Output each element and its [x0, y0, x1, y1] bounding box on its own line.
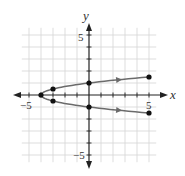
arrow-left-icon	[13, 92, 21, 98]
data-point	[86, 80, 91, 85]
direction-arrow-right-icon	[116, 77, 122, 83]
coordinate-plane: y x −5 5 5 −5	[0, 0, 185, 176]
x-tick-label-5: 5	[146, 99, 152, 111]
data-point	[50, 86, 55, 91]
direction-arrow-left-icon	[116, 107, 122, 113]
data-point	[146, 74, 151, 79]
axes	[13, 23, 168, 169]
y-tick-label-5: 5	[78, 31, 84, 43]
data-point	[146, 110, 151, 115]
y-axis-label: y	[81, 8, 89, 23]
x-tick-label-neg5: −5	[20, 99, 32, 111]
arrow-down-icon	[86, 161, 92, 169]
data-point	[50, 98, 55, 103]
arrow-right-icon	[160, 92, 168, 98]
data-point	[86, 104, 91, 109]
data-point	[38, 92, 43, 97]
arrow-up-icon	[86, 23, 92, 31]
y-tick-label-neg5: −5	[73, 149, 85, 161]
x-axis-label: x	[169, 87, 176, 102]
